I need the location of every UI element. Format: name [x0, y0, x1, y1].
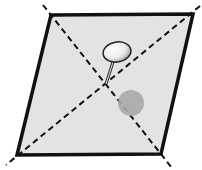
pin-shadow [118, 90, 144, 116]
diagram-canvas [0, 0, 202, 170]
